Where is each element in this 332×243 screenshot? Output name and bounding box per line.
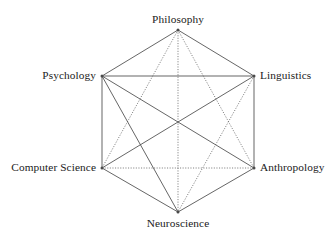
vertex-dot-psychology [101, 75, 104, 78]
node-label-neuroscience: Neuroscience [147, 218, 210, 229]
cognitive-science-hexagon-diagram: PhilosophyPsychologyLinguisticsComputer … [0, 0, 332, 243]
vertex-dot-computer-science [101, 167, 104, 170]
node-label-psychology: Psychology [42, 70, 96, 81]
edge-philosophy-to-psychology [102, 30, 178, 76]
edge-computer-science-to-neuroscience [102, 168, 178, 212]
vertex-dot-linguistics [253, 75, 256, 78]
node-label-computer-science: Computer Science [11, 162, 96, 173]
diagram-canvas [0, 0, 332, 243]
node-label-anthropology: Anthropology [260, 162, 325, 173]
edge-linguistics-to-neuroscience [178, 76, 254, 212]
edge-psychology-to-neuroscience [102, 76, 178, 212]
dotted-edge-group [102, 30, 254, 212]
node-label-linguistics: Linguistics [260, 70, 311, 81]
node-label-philosophy: Philosophy [152, 14, 204, 25]
edge-anthropology-to-neuroscience [178, 168, 254, 212]
edge-philosophy-to-computer-science [102, 30, 178, 168]
vertex-dot-philosophy [177, 29, 180, 32]
edge-philosophy-to-anthropology [178, 30, 254, 168]
vertex-dot-neuroscience [177, 211, 180, 214]
edge-philosophy-to-linguistics [178, 30, 254, 76]
vertex-dot-anthropology [253, 167, 256, 170]
